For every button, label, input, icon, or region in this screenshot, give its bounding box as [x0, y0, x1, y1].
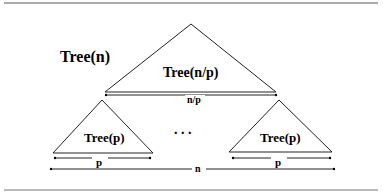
left-tree-label: Tree(p)	[84, 130, 125, 145]
top-tree-triangle	[105, 24, 276, 92]
tree-diagram: Tree(n) Tree(n/p) n/p Tree(p) p . . . Tr…	[0, 0, 383, 194]
root-label: Tree(n)	[60, 48, 110, 66]
right-width-label: p	[275, 156, 281, 168]
left-tree-triangle	[53, 100, 153, 153]
ellipsis: . . .	[174, 122, 192, 137]
total-width-label: n	[195, 163, 201, 174]
left-width-label: p	[96, 156, 102, 168]
right-tree-label: Tree(p)	[260, 130, 301, 145]
top-width-label: n/p	[187, 94, 201, 105]
top-tree-label: Tree(n/p)	[163, 65, 219, 81]
